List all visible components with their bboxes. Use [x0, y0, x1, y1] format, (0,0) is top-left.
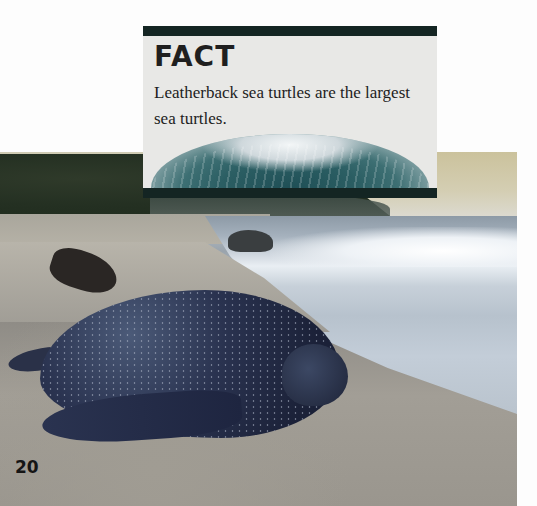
page-number: 20: [15, 457, 39, 477]
cropped-text-fragment: [100, 0, 240, 4]
beach-photo: [0, 152, 517, 506]
distant-driftwood: [228, 230, 273, 252]
fact-title: FACT: [154, 42, 235, 72]
surf: [270, 227, 517, 267]
fact-top-bar: [143, 26, 437, 36]
fact-box: FACT Leatherback sea turtles are the lar…: [143, 26, 437, 198]
fact-text: Leatherback sea turtles are the largest …: [154, 80, 429, 132]
fact-bottom-bar: [143, 188, 437, 198]
turtle-head: [282, 344, 348, 406]
